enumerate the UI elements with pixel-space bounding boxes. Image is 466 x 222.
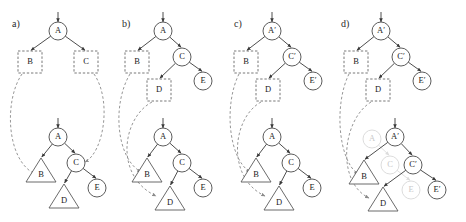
node-b: B xyxy=(26,158,56,182)
tree-edge xyxy=(388,37,400,47)
node-label: D xyxy=(156,84,162,94)
tree-edge-faded xyxy=(379,145,390,155)
node-label: D xyxy=(167,197,173,207)
node-e-prime: E′ xyxy=(413,72,431,90)
node-e: E xyxy=(303,179,321,197)
node-label: B xyxy=(27,56,33,66)
node-a: A xyxy=(154,22,172,40)
tree-edge xyxy=(401,144,412,156)
node-label: E xyxy=(200,75,205,85)
dashed-correspondence-link-C xyxy=(85,74,104,162)
dashed-correspondence-link-B xyxy=(119,74,141,172)
node-d: D xyxy=(366,79,390,101)
node-label: B xyxy=(353,56,359,66)
node-label: A′ xyxy=(391,131,399,141)
node-label: B xyxy=(144,169,150,179)
node-c-prime: C′ xyxy=(392,48,410,66)
node-label: A xyxy=(369,133,376,143)
tree-edge xyxy=(257,144,267,157)
node-label: B xyxy=(134,56,140,66)
node-label: C′ xyxy=(288,51,296,61)
node-a: A xyxy=(154,128,172,146)
tree-edge xyxy=(170,143,181,153)
node-e-prime: E′ xyxy=(428,181,446,199)
node-e: E xyxy=(194,72,212,90)
node-c: C xyxy=(173,154,191,172)
node-label: B xyxy=(361,171,367,181)
tree-transformation-figure: ABCABCDEa)ABCDEABCDEb)A′BC′DE′ABCDEc)A′B… xyxy=(0,0,466,222)
node-label: C′ xyxy=(409,159,417,169)
node-c-old: C xyxy=(381,156,399,174)
tree-edge xyxy=(65,36,85,50)
panel-d: A′BC′DE′ACEA′BC′DE′d) xyxy=(340,12,446,211)
node-a: A xyxy=(49,128,67,146)
node-d: D xyxy=(368,187,398,211)
node-label: D xyxy=(276,197,282,207)
node-a-old: A xyxy=(363,130,381,148)
node-d: D xyxy=(264,186,294,210)
node-c-prime: C′ xyxy=(283,48,301,66)
tree-edge xyxy=(42,144,53,157)
node-label: E xyxy=(94,182,99,192)
node-label: E xyxy=(309,182,314,192)
node-e-old: E xyxy=(402,181,420,199)
tree-edge xyxy=(279,37,291,47)
panel-label-c: c) xyxy=(234,18,242,30)
node-a: A xyxy=(263,128,281,146)
dashed-correspondence-link-B xyxy=(230,74,250,172)
node-c-prime: C′ xyxy=(404,156,422,174)
node-c: C xyxy=(173,48,191,66)
node-label: E′ xyxy=(309,75,316,85)
tree-edge xyxy=(189,168,202,178)
node-label: A xyxy=(160,25,167,35)
node-b: B xyxy=(18,51,42,73)
node-label: A′ xyxy=(268,25,276,35)
node-c: C xyxy=(282,154,300,172)
tree-edge xyxy=(65,143,76,153)
panel-label-d: d) xyxy=(341,18,349,30)
node-label: A xyxy=(269,131,276,141)
tree-edge xyxy=(357,37,374,51)
tree-edge xyxy=(280,171,287,185)
tree-edge xyxy=(279,143,290,153)
node-label: A xyxy=(55,25,62,35)
node-label: C xyxy=(387,159,393,169)
tree-edge xyxy=(299,62,312,71)
tree-edge xyxy=(31,36,51,50)
tree-edge xyxy=(298,168,311,178)
tree-edge xyxy=(138,36,156,50)
node-d: D xyxy=(155,186,185,210)
node-label: D xyxy=(61,195,67,205)
node-b: B xyxy=(349,160,379,184)
tree-edge xyxy=(420,170,436,180)
node-b: B xyxy=(234,51,258,73)
node-b: B xyxy=(125,51,149,73)
node-a-prime: A′ xyxy=(263,22,281,40)
panel-a: ABCABCDEa) xyxy=(10,12,106,208)
dashed-correspondence-link-B xyxy=(10,74,35,174)
tree-edge xyxy=(247,36,265,50)
node-label: C xyxy=(179,157,185,167)
panel-c: A′BC′DE′ABCDEc) xyxy=(230,12,322,210)
tree-edge xyxy=(170,37,181,47)
node-c: C xyxy=(74,51,98,73)
node-label: C xyxy=(83,56,89,66)
tree-edge xyxy=(269,63,285,78)
node-label: A′ xyxy=(377,25,385,35)
node-e-prime: E′ xyxy=(304,72,322,90)
node-a: A xyxy=(49,22,67,40)
node-c: C xyxy=(67,154,85,172)
node-label: B xyxy=(253,169,259,179)
tree-edge xyxy=(148,144,158,157)
node-e: E xyxy=(88,179,106,197)
tree-edge xyxy=(160,63,176,78)
tree-edge xyxy=(379,63,395,78)
node-label: D xyxy=(265,84,271,94)
node-a-prime: A′ xyxy=(372,22,390,40)
node-d: D xyxy=(147,79,171,101)
node-d: D xyxy=(256,79,280,101)
node-label: E xyxy=(408,184,413,194)
node-label: D xyxy=(375,84,381,94)
node-label: E xyxy=(200,182,205,192)
tree-edge xyxy=(408,62,421,71)
